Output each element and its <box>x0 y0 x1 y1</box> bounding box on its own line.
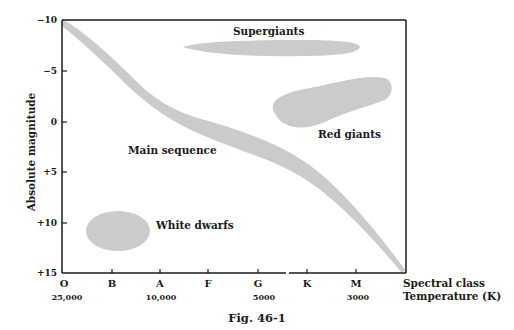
x-tick-label: B <box>108 278 116 289</box>
supergiants-region <box>183 40 360 56</box>
x-tick-label: A <box>155 278 164 289</box>
temp-label: 10,000 <box>146 292 177 302</box>
x-tick-labels: O B A F G K M <box>60 278 362 289</box>
x-axis-title-temperature: Temperature (K) <box>403 290 501 302</box>
y-axis-title: Absolute magnitude <box>25 92 37 212</box>
y-tick-label: +5 <box>43 167 57 177</box>
y-tick-label: −10 <box>37 15 57 25</box>
white-dwarfs-region <box>86 211 150 251</box>
temp-label: 25,000 <box>52 292 83 302</box>
figure-caption: Fig. 46-1 <box>228 311 285 325</box>
x-tick-label: O <box>60 278 69 289</box>
red-giants-label: Red giants <box>318 128 381 140</box>
temp-label: 3000 <box>347 292 370 302</box>
x-tick-label: F <box>204 278 211 289</box>
main-sequence-label: Main sequence <box>128 144 217 156</box>
y-tick-labels: −10 −5 0 +5 +10 +15 <box>37 15 57 278</box>
temperature-labels: 25,000 10,000 5000 3000 <box>52 292 370 302</box>
y-tick-label: +15 <box>37 268 57 278</box>
temp-label: 5000 <box>253 292 276 302</box>
y-tick-label: −5 <box>43 66 57 76</box>
red-giants-region <box>273 77 392 128</box>
white-dwarfs-label: White dwarfs <box>155 219 234 231</box>
x-axis-title: Spectral class <box>403 277 485 289</box>
regions <box>62 19 406 272</box>
x-tick-label: K <box>303 278 312 289</box>
x-tick-label: G <box>254 278 263 289</box>
x-tick-label: M <box>350 278 361 289</box>
y-tick-label: +10 <box>37 218 57 228</box>
hr-diagram: −10 −5 0 +5 +10 +15 O B A F G K M 25,000… <box>0 0 514 330</box>
supergiants-label: Supergiants <box>233 25 304 37</box>
y-tick-label: 0 <box>51 117 57 127</box>
